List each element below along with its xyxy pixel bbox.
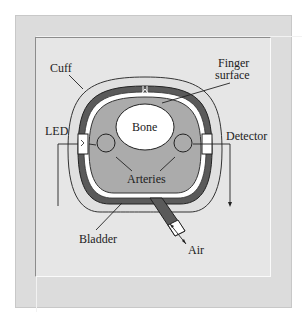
cuff-label: Cuff bbox=[50, 61, 72, 75]
finger-surface-label-2: surface bbox=[215, 68, 250, 82]
led-label: LED bbox=[45, 124, 69, 138]
detector-wire-arrowhead bbox=[228, 202, 232, 207]
arteries-label: Arteries bbox=[127, 172, 166, 186]
bone-label: Bone bbox=[132, 120, 157, 134]
cuff-pointer bbox=[69, 75, 83, 89]
finger-cuff-diagram: Bone Arteries LED Detector Cuff Finger s… bbox=[0, 0, 304, 332]
detector-label: Detector bbox=[226, 129, 267, 143]
bladder-label: Bladder bbox=[79, 232, 117, 246]
artery-left bbox=[97, 134, 115, 152]
artery-right bbox=[174, 134, 192, 152]
air-label: Air bbox=[188, 243, 204, 257]
